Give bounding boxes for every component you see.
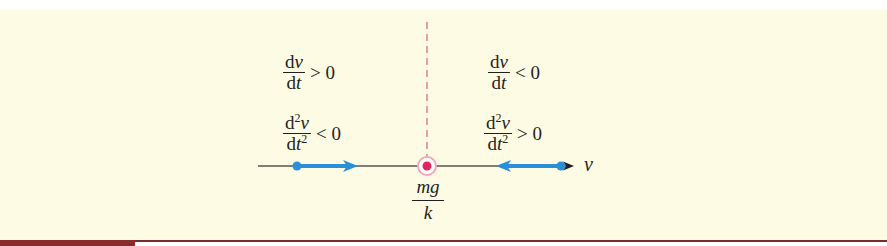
right-second-derivative: d2v dt2 > 0 — [484, 113, 542, 154]
right-dv-num: dv — [488, 52, 510, 72]
left-first-relation: > 0 — [310, 62, 335, 84]
equilibrium-label: mg k — [410, 176, 446, 224]
equilibrium-dot — [423, 162, 432, 171]
left-second-relation: < 0 — [316, 123, 341, 145]
right-first-derivative: dv dt < 0 — [488, 52, 540, 93]
fraction-bar — [412, 200, 444, 201]
left-dt2-den: dt2 — [285, 134, 310, 154]
left-d2v-num: d2v — [283, 113, 311, 133]
axis-label: v — [584, 153, 593, 176]
left-second-derivative: d2v dt2 < 0 — [283, 113, 341, 154]
equilibrium-denominator: k — [424, 202, 432, 224]
right-second-relation: > 0 — [517, 123, 542, 145]
equilibrium-numerator: mg — [416, 176, 439, 198]
left-dt-den: dt — [285, 73, 304, 93]
right-d2v-num: d2v — [484, 113, 512, 133]
left-start-dot — [293, 162, 302, 171]
right-dt-den: dt — [490, 73, 509, 93]
right-dt2-den: dt2 — [486, 134, 511, 154]
right-first-relation: < 0 — [515, 62, 540, 84]
left-first-derivative: dv dt > 0 — [283, 52, 335, 93]
right-start-dot — [557, 162, 566, 171]
left-dv-num: dv — [283, 52, 305, 72]
